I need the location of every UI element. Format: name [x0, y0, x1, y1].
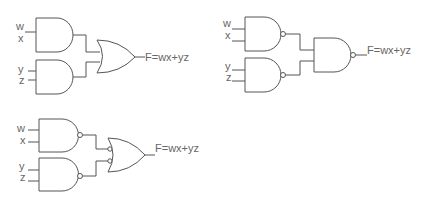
logic-circuits-diagram: w x y z F=wx+yz w x y z	[0, 0, 427, 210]
input-label-w: w	[222, 17, 231, 29]
input-label-x: x	[20, 134, 26, 146]
input-label-w: w	[15, 20, 24, 32]
nand-gate-wx	[39, 119, 79, 152]
and-gate-yz	[36, 60, 73, 94]
wire-nand2-to-or	[83, 161, 108, 176]
nand-gate-output	[314, 38, 351, 72]
or-gate	[97, 40, 135, 73]
or-gate-inverted-inputs	[108, 138, 145, 172]
input-label-z: z	[20, 171, 26, 183]
wire-nand1-to-nand3	[286, 34, 314, 50]
circuit-and-or: w x y z F=wx+yz	[15, 18, 189, 94]
and-gate-wx	[36, 18, 73, 52]
inversion-bubble	[351, 53, 356, 58]
input-label-x: x	[225, 29, 231, 41]
inversion-bubble	[78, 174, 83, 179]
nand-gate-yz	[39, 158, 79, 191]
nand-gate-yz	[245, 58, 281, 92]
wire-nand1-to-or	[83, 135, 108, 149]
inversion-bubble	[281, 32, 286, 37]
input-label-x: x	[18, 32, 24, 44]
input-label-w: w	[16, 122, 25, 134]
output-label: F=wx+yz	[145, 51, 189, 63]
input-label-z: z	[226, 71, 232, 83]
wire-and1-to-or	[73, 35, 100, 52]
inversion-bubble	[78, 133, 83, 138]
circuit-nand-invor: w x y z F=wx+yz	[16, 119, 199, 191]
nand-gate-wx	[245, 17, 281, 51]
inversion-bubble	[281, 73, 286, 78]
input-label-z: z	[19, 74, 25, 86]
wire-and2-to-or	[73, 62, 100, 77]
wire-nand2-to-nand3	[286, 61, 314, 75]
output-label: F=wx+yz	[367, 44, 411, 56]
output-label: F=wx+yz	[155, 142, 199, 154]
circuit-nand-nand: w x y z F=wx+yz	[222, 17, 411, 92]
